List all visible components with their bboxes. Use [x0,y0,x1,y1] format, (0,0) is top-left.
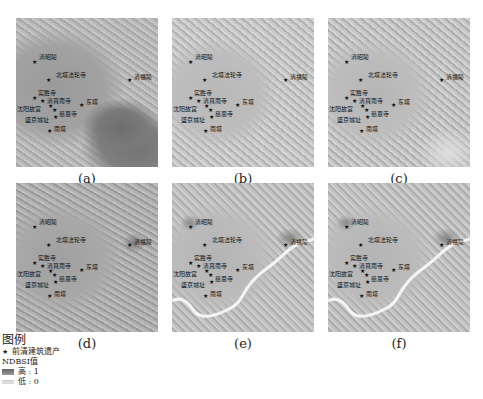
site-label: 南塔 [54,126,66,132]
site-label: 盛京城址 [337,117,361,123]
site-label: 南塔 [366,291,378,297]
legend-high-label: 高 : 1 [18,367,39,377]
site-label: 清昭陵 [39,54,57,60]
heritage-star-icon: ★ [209,114,214,120]
heritage-star-icon: ★ [358,77,363,83]
low-swatch-icon [2,380,14,384]
site-label: 清福陵 [446,239,464,245]
heritage-star-icon: ★ [40,263,45,269]
site-label: 北塔法轮寺 [368,72,398,78]
heritage-star-icon: ★ [53,279,58,285]
heritage-star-icon: ★ [203,293,208,299]
site-label: 南塔 [54,291,66,297]
site-label: 沈阳故宫 [17,271,41,277]
heritage-star-icon: ★ [127,77,132,83]
site-label: 清昭陵 [39,219,57,225]
site-label: 实胜寺 [38,255,56,261]
heritage-star-icon: ★ [188,59,193,65]
site-label: 沈阳故宫 [173,106,197,112]
heritage-star-icon: ★ [365,114,370,120]
site-label: 东塔 [398,264,410,270]
heritage-star-icon: ★ [359,293,364,299]
heritage-star-icon: ★ [202,77,207,83]
site-label: 盛京城址 [181,282,205,288]
legend-low-label: 低 : 0 [18,377,39,387]
heritage-star-icon: ★ [391,267,396,273]
heritage-star-icon: ★ [202,242,207,248]
site-label: 慈恩寺 [59,111,77,117]
heritage-star-icon: ★ [209,279,214,285]
legend-heritage-row: ★ 前清建筑遗产 [2,347,60,357]
site-label: 慈恩寺 [215,276,233,282]
heritage-star-icon: ★ [47,293,52,299]
heritage-star-icon: ★ [32,95,37,101]
panel-caption-f: (f) [328,336,470,351]
heritage-star-icon: ★ [283,242,288,248]
heritage-star-icon: ★ [46,77,51,83]
heritage-star-icon: ★ [46,242,51,248]
site-label: 沈阳故宫 [329,106,353,112]
heritage-star-icon: ★ [344,224,349,230]
heritage-star-icon: ★ [358,242,363,248]
heritage-star-icon: ★ [188,224,193,230]
heritage-star-icon: ★ [40,98,45,104]
heritage-star-icon: ★ [79,102,84,108]
site-label: 沈阳故宫 [17,106,41,112]
site-label: 慈恩寺 [59,276,77,282]
map-panel-e: ★清昭陵★北塔法轮寺★清福陵★实胜寺★清真南寺★沈阳故宫★慈恩寺★盛京城址★东塔… [172,183,314,332]
heritage-star-icon: ★ [188,95,193,101]
site-label: 盛京城址 [25,117,49,123]
site-label: 东塔 [86,264,98,270]
site-label: 东塔 [398,99,410,105]
site-label: 沈阳故宫 [329,271,353,277]
heritage-star-icon: ★ [47,128,52,134]
site-label: 实胜寺 [350,90,368,96]
heritage-star-icon: ★ [235,102,240,108]
site-label: 慈恩寺 [215,111,233,117]
legend-title: 图例 [2,334,60,347]
map-panel-c: ★清昭陵★北塔法轮寺★清福陵★实胜寺★清真南寺★沈阳故宫★慈恩寺★盛京城址★东塔… [328,18,470,167]
heritage-star-icon: ★ [196,263,201,269]
high-swatch-icon [2,369,14,375]
site-label: 北塔法轮寺 [212,72,242,78]
site-label: 清福陵 [134,74,152,80]
site-label: 盛京城址 [181,117,205,123]
heritage-star-icon: ★ [359,128,364,134]
heritage-star-icon: ★ [235,267,240,273]
site-label: 东塔 [86,99,98,105]
heritage-star-icon: ★ [203,128,208,134]
heritage-star-icon: ★ [344,95,349,101]
site-label: 清昭陵 [351,219,369,225]
heritage-star-icon: ★ [32,260,37,266]
heritage-star-icon: ★ [352,98,357,104]
heritage-star-icon: ★ [32,224,37,230]
site-label: 慈恩寺 [371,276,389,282]
site-label: 慈恩寺 [371,111,389,117]
heritage-star-icon: ★ [344,59,349,65]
site-label: 盛京城址 [25,282,49,288]
legend-heritage-label: 前清建筑遗产 [12,347,60,357]
site-label: 实胜寺 [194,90,212,96]
map-panel-a: ★清昭陵★北塔法轮寺★清福陵★实胜寺★清真南寺★沈阳故宫★慈恩寺★盛京城址★东塔… [16,18,158,167]
heritage-star-icon: ★ [352,263,357,269]
heritage-star-icon: ★ [365,279,370,285]
site-label: 南塔 [210,291,222,297]
heritage-star-icon: ★ [391,102,396,108]
heritage-star-icon: ★ [127,242,132,248]
site-label: 清福陵 [290,239,308,245]
site-label: 北塔法轮寺 [368,237,398,243]
legend-low-row: 低 : 0 [2,377,60,387]
heritage-star-icon: ★ [344,260,349,266]
site-label: 沈阳故宫 [173,271,197,277]
heritage-star-icon: ★ [439,77,444,83]
site-label: 南塔 [210,126,222,132]
site-label: 北塔法轮寺 [212,237,242,243]
map-panel-d: ★清昭陵★北塔法轮寺★清福陵★实胜寺★清真南寺★沈阳故宫★慈恩寺★盛京城址★东塔… [16,183,158,332]
site-label: 实胜寺 [350,255,368,261]
site-label: 清福陵 [446,74,464,80]
site-label: 实胜寺 [194,255,212,261]
site-label: 东塔 [242,99,254,105]
site-label: 清昭陵 [195,219,213,225]
site-label: 清昭陵 [351,54,369,60]
site-label: 清福陵 [134,239,152,245]
